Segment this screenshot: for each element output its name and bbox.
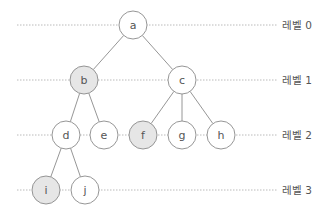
- edge-d-i: [51, 148, 61, 177]
- edge-d-j: [71, 148, 81, 177]
- node-d-label: d: [63, 129, 70, 142]
- edge-c-f: [151, 91, 174, 123]
- node-g: g: [168, 121, 196, 149]
- level-1-label: 레벨 1: [282, 74, 312, 86]
- node-b-label: b: [81, 74, 88, 87]
- node-i-label: i: [44, 184, 47, 197]
- node-f: f: [129, 121, 157, 149]
- node-c: c: [168, 66, 196, 94]
- node-d: d: [52, 121, 80, 149]
- level-3-label: 레벨 3: [282, 184, 312, 196]
- edge-c-h: [190, 91, 213, 123]
- edge-b-d: [70, 93, 79, 121]
- node-a: a: [119, 11, 147, 39]
- level-2-label: 레벨 2: [282, 129, 312, 141]
- level-labels: 레벨 0레벨 1레벨 2레벨 3: [282, 19, 312, 196]
- node-h: h: [207, 121, 235, 149]
- tree-nodes: abcdefghij: [32, 11, 235, 204]
- node-e: e: [90, 121, 118, 149]
- node-e-label: e: [101, 129, 108, 142]
- edge-a-b: [93, 35, 123, 69]
- level-guide-lines: [17, 25, 277, 190]
- tree-diagram: abcdefghij 레벨 0레벨 1레벨 2레벨 3: [0, 0, 324, 215]
- node-h-label: h: [218, 129, 225, 142]
- node-a-label: a: [130, 19, 137, 32]
- node-c-label: c: [179, 74, 185, 87]
- node-b: b: [70, 66, 98, 94]
- edge-b-e: [89, 93, 99, 122]
- level-0-label: 레벨 0: [282, 19, 312, 31]
- node-j: j: [71, 176, 99, 204]
- node-j-label: j: [82, 184, 86, 197]
- node-i: i: [32, 176, 60, 204]
- edge-a-c: [142, 35, 172, 69]
- tree-edges: [51, 35, 213, 176]
- node-g-label: g: [179, 129, 186, 142]
